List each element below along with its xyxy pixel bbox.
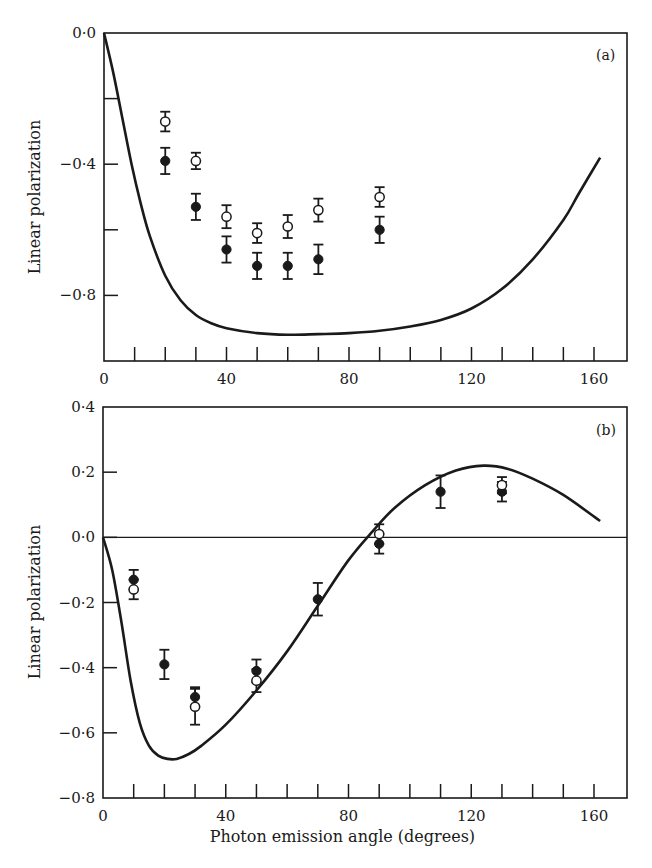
panel-tag: (b): [596, 422, 616, 438]
x-tick-label: 120: [457, 370, 486, 388]
y-tick-label: 0·4: [71, 398, 95, 416]
filled-data-point: [313, 595, 322, 604]
x-tick-label: 80: [339, 370, 358, 388]
filled-data-point: [160, 660, 169, 669]
y-tick-label: 0·0: [72, 24, 96, 42]
open-data-point: [252, 676, 261, 685]
x-tick-label: 0: [98, 807, 108, 825]
y-tick-label: −0·6: [59, 724, 95, 742]
open-data-point: [222, 212, 231, 221]
filled-data-point: [436, 487, 445, 496]
filled-data-point: [222, 245, 231, 254]
y-tick-label: −0·8: [60, 286, 96, 304]
open-data-point: [161, 117, 170, 126]
panel-b: 040801201600·40·20·0−0·2−0·4−0·6−0·8Line…: [25, 398, 627, 846]
open-data-point: [190, 702, 199, 711]
plot-frame: [104, 33, 627, 361]
open-data-point: [375, 192, 384, 201]
x-tick-label: 40: [217, 370, 236, 388]
y-tick-label: 0·2: [71, 463, 95, 481]
y-axis-label: Linear polarization: [25, 120, 44, 275]
filled-data-point: [375, 225, 384, 234]
plot-frame: [103, 407, 627, 798]
open-data-point: [314, 206, 323, 215]
y-tick-label: −0·4: [60, 155, 96, 173]
x-tick-label: 160: [580, 807, 609, 825]
filled-data-point: [191, 202, 200, 211]
x-tick-label: 80: [339, 807, 358, 825]
panel-tag: (a): [596, 47, 615, 63]
y-axis-label: Linear polarization: [25, 525, 44, 680]
panel-a: 040801201600·0−0·4−0·8Linear polarizatio…: [25, 24, 627, 388]
y-tick-label: 0·0: [71, 528, 95, 546]
filled-data-point: [161, 156, 170, 165]
x-axis-label: Photon emission angle (degrees): [210, 827, 475, 846]
open-data-point: [497, 481, 506, 490]
open-data-point: [253, 228, 262, 237]
filled-data-point: [283, 261, 292, 270]
x-tick-label: 0: [99, 370, 109, 388]
filled-data-point: [314, 255, 323, 264]
open-data-point: [283, 222, 292, 231]
open-data-point: [129, 585, 138, 594]
y-tick-label: −0·4: [59, 659, 95, 677]
theory-curve: [103, 466, 600, 760]
theory-curve: [104, 33, 600, 335]
y-tick-label: −0·8: [59, 789, 95, 807]
x-tick-label: 160: [580, 370, 609, 388]
x-tick-label: 120: [457, 807, 486, 825]
filled-data-point: [253, 261, 262, 270]
y-tick-label: −0·2: [59, 594, 95, 612]
open-data-point: [191, 156, 200, 165]
open-data-point: [375, 529, 384, 538]
polarization-figure: 040801201600·0−0·4−0·8Linear polarizatio…: [0, 0, 652, 868]
x-tick-label: 40: [216, 807, 235, 825]
